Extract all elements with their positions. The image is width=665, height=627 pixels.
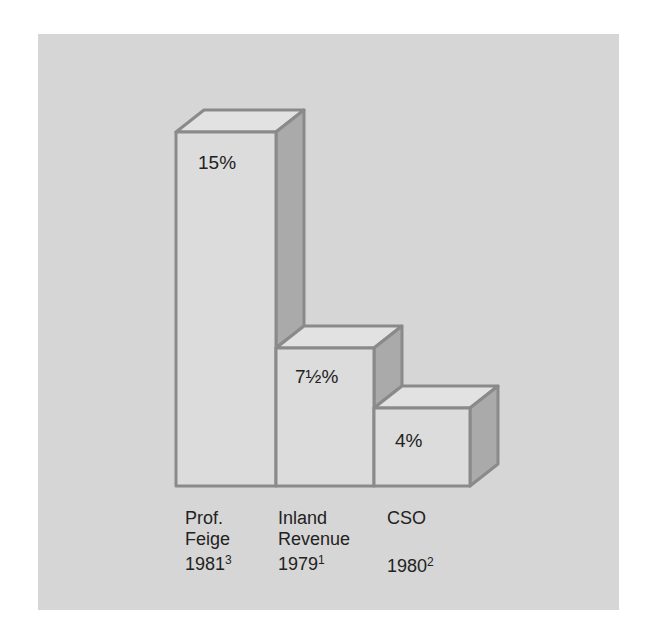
bar-1-label-line1: Prof. xyxy=(185,508,232,529)
bar-3-value-label: 4% xyxy=(395,430,422,452)
bar-1-side xyxy=(276,110,304,348)
bar-2-label-line2: Revenue xyxy=(278,529,350,550)
bar-3-label-line1: CSO xyxy=(387,508,434,529)
bar-1-value-label: 15% xyxy=(198,152,236,174)
bar-3-year: 1980 xyxy=(387,556,427,576)
bar-2-label-line1: Inland xyxy=(278,508,350,529)
bar-1-footnote: 3 xyxy=(225,553,232,567)
bar-1-category-label: Prof. Feige 19813 xyxy=(185,508,232,575)
bar-1-label-line2: Feige xyxy=(185,529,232,550)
bar-3-footnote: 2 xyxy=(427,555,434,569)
bar-3-category-label: CSO 19802 xyxy=(387,508,434,577)
bar-1-year: 1981 xyxy=(185,554,225,574)
bar-2-year: 1979 xyxy=(278,554,318,574)
bar-1-front xyxy=(176,132,276,486)
bar-2-value-label: 7½% xyxy=(295,366,338,388)
bar-2-category-label: Inland Revenue 19791 xyxy=(278,508,350,575)
bar-2-footnote: 1 xyxy=(318,553,325,567)
bar-3-label-line2 xyxy=(387,529,434,550)
